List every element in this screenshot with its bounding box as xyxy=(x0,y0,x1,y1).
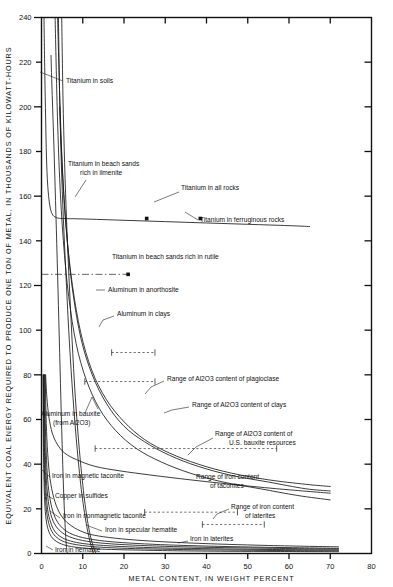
annotation-label: Range of Al2O3 content of xyxy=(215,430,293,438)
annotation-label: Copper in sulfides xyxy=(55,492,108,500)
annotation-label-line2: rich in ilmenite xyxy=(80,169,122,176)
data-point-marker xyxy=(145,217,149,221)
y-tick-label: 80 xyxy=(23,371,31,380)
annotation-label: Titanium in all rocks xyxy=(181,184,240,191)
annotation-leader-line xyxy=(75,180,86,197)
y-tick-label: 120 xyxy=(19,281,32,290)
y-tick-label: 220 xyxy=(19,58,32,67)
annotation-label-line2: of laterites xyxy=(245,512,276,519)
x-tick-label: 10 xyxy=(79,562,87,571)
annotation-leader-line xyxy=(164,407,189,413)
annotation-label: Titanium in ferruginous rocks xyxy=(200,216,285,224)
annotation-label: Range of Al2O3 content of clays xyxy=(192,401,287,409)
chart-figure: 0102030405060708002040608010012014016018… xyxy=(0,0,393,587)
range-bar-4 xyxy=(202,521,264,527)
x-tick-label: 30 xyxy=(161,562,169,571)
series-line xyxy=(43,375,338,551)
x-tick-label: 60 xyxy=(285,562,293,571)
annotation-label-line2: (from Al2O3) xyxy=(53,419,90,427)
x-tick-label: 20 xyxy=(120,562,128,571)
annotation-leader-line xyxy=(46,546,53,550)
y-tick-label: 160 xyxy=(19,192,32,201)
range-bar-2 xyxy=(95,445,277,451)
annotation-label: Iron in hematite xyxy=(55,546,101,553)
annotation-label: Titanium in beach sands rich in rutile xyxy=(112,253,219,260)
annotation-label: Iron in laterites xyxy=(190,535,234,542)
y-tick-label: 60 xyxy=(23,415,31,424)
annotation-leader-line xyxy=(185,212,198,220)
annotation-label: Titanium in soils xyxy=(66,77,114,84)
annotation-label: Aluminum in bauxite xyxy=(41,410,101,417)
annotation-label-line2: U.S. bauxite resources xyxy=(229,439,296,446)
range-bar-3 xyxy=(145,509,238,515)
annotation-label: Iron in nonmagnetic taconite xyxy=(63,512,146,520)
annotation-label: Aluminum in anorthosite xyxy=(108,286,179,293)
annotation-leader-line xyxy=(154,192,179,202)
y-tick-label: 0 xyxy=(27,549,31,558)
series-line xyxy=(43,375,338,552)
annotation-leader-line xyxy=(145,381,164,394)
y-tick-label: 100 xyxy=(19,326,32,335)
range-bar-0 xyxy=(112,349,155,355)
data-point-marker xyxy=(126,273,130,277)
x-tick-label: 70 xyxy=(326,562,334,571)
annotation-label-line2: of taconites xyxy=(210,482,244,489)
x-axis-title: METAL CONTENT, IN WEIGHT PERCENT xyxy=(128,574,294,583)
annotation-label: Range of Al2O3 content of plagioclase xyxy=(167,375,280,383)
x-tick-label: 0 xyxy=(39,562,43,571)
annotation-label: Iron in magnetic taconite xyxy=(52,472,124,480)
x-tick-label: 50 xyxy=(244,562,252,571)
y-tick-label: 200 xyxy=(19,103,32,112)
annotation-label: Range of iron content xyxy=(196,473,259,481)
x-tick-label: 40 xyxy=(202,562,210,571)
annotation-leader-line xyxy=(213,509,229,519)
y-tick-label: 180 xyxy=(19,147,32,156)
annotation-label: Range of iron content xyxy=(231,503,294,511)
annotation-label: Iron in specular hematite xyxy=(105,526,178,534)
y-tick-label: 40 xyxy=(23,460,31,469)
annotation-label: Titanium in beach sands xyxy=(68,160,140,167)
y-axis-title: EQUIVALENT COAL ENERGY REQUIRED TO PRODU… xyxy=(4,47,13,525)
y-tick-label: 240 xyxy=(19,13,32,22)
annotation-leader-line xyxy=(188,438,213,455)
annotation-label: Aluminum in clays xyxy=(117,310,171,318)
annotation-leader-line xyxy=(99,316,114,327)
y-tick-label: 140 xyxy=(19,237,32,246)
x-tick-label: 80 xyxy=(367,562,375,571)
series-line xyxy=(44,18,310,227)
energy-vs-metal-content-chart: 0102030405060708002040608010012014016018… xyxy=(0,0,393,587)
y-tick-label: 20 xyxy=(23,505,31,514)
